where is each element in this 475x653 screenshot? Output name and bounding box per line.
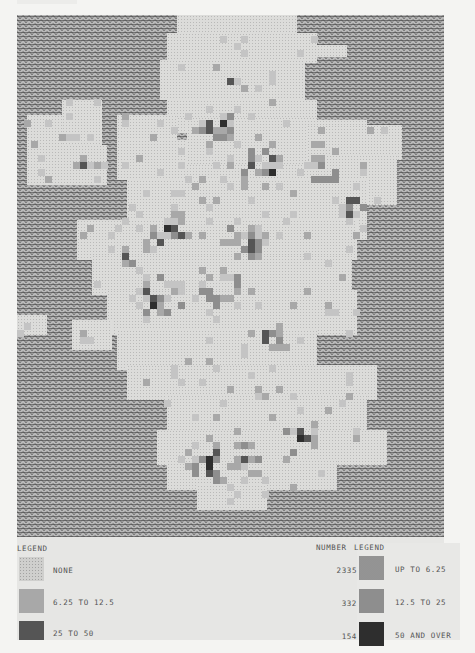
density-cell [122, 120, 129, 127]
density-cell [171, 281, 178, 288]
legend-left-title: LEGEND [17, 544, 48, 553]
density-cell [220, 295, 227, 302]
density-cell [143, 288, 150, 295]
density-cell [346, 330, 353, 337]
density-cell [171, 225, 178, 232]
density-cell [241, 36, 248, 43]
density-cell [164, 218, 171, 225]
density-cell [59, 134, 66, 141]
legend-right-panel: LEGEND UP TO 6.25 12.5 TO 25 50 AND OVER [357, 543, 460, 640]
density-cell [311, 442, 318, 449]
map-frame [17, 15, 444, 537]
density-cell [122, 113, 129, 120]
density-cell [213, 295, 220, 302]
density-cell [332, 176, 339, 183]
density-cell [150, 134, 157, 141]
density-cell [199, 281, 206, 288]
density-cell [143, 274, 150, 281]
density-cell [178, 302, 185, 309]
density-cell [206, 120, 213, 127]
legend-label-6-25-to-12-5: 6.25 TO 12.5 [53, 598, 114, 607]
density-cell [24, 323, 31, 330]
density-cell [136, 211, 143, 218]
density-cell [283, 456, 290, 463]
density-cell [213, 414, 220, 421]
density-cell [269, 365, 276, 372]
density-cell [269, 162, 276, 169]
land-region [72, 320, 112, 350]
density-cell [94, 281, 101, 288]
density-cell [213, 302, 220, 309]
density-cell [192, 470, 199, 477]
density-cell [262, 337, 269, 344]
density-cell [108, 246, 115, 253]
density-cell [248, 246, 255, 253]
density-cell [269, 99, 276, 106]
density-cell [269, 344, 276, 351]
density-cell [178, 190, 185, 197]
density-cell [234, 281, 241, 288]
density-cell [227, 239, 234, 246]
density-cell [73, 162, 80, 169]
density-cell [255, 134, 262, 141]
density-cell [234, 463, 241, 470]
density-cell [87, 225, 94, 232]
density-cell [213, 162, 220, 169]
density-cell [332, 148, 339, 155]
density-cell [234, 288, 241, 295]
density-cell [185, 358, 192, 365]
density-cell [143, 309, 150, 316]
density-cell [248, 225, 255, 232]
density-cell [178, 379, 185, 386]
density-cell [241, 477, 248, 484]
density-cell [304, 288, 311, 295]
density-cell [255, 85, 262, 92]
density-cell [80, 330, 87, 337]
density-cell [234, 456, 241, 463]
density-cell [297, 169, 304, 176]
density-cell [255, 302, 262, 309]
legend-swatch-25-to-50 [19, 621, 44, 640]
density-cell [185, 463, 192, 470]
density-cell [164, 281, 171, 288]
density-cell [171, 211, 178, 218]
density-cell [290, 211, 297, 218]
density-cell [248, 456, 255, 463]
density-cell [129, 204, 136, 211]
density-cell [73, 134, 80, 141]
density-cell [178, 211, 185, 218]
density-cell [24, 120, 31, 127]
density-cell [262, 393, 269, 400]
density-cell [346, 197, 353, 204]
density-cell [171, 288, 178, 295]
density-cell [178, 232, 185, 239]
density-cell [234, 141, 241, 148]
density-cell [220, 477, 227, 484]
density-cell [199, 197, 206, 204]
density-cell [143, 281, 150, 288]
density-cell [234, 232, 241, 239]
density-cell [241, 351, 248, 358]
density-cell [199, 127, 206, 134]
density-cell [234, 253, 241, 260]
density-cell [150, 246, 157, 253]
density-cell [164, 295, 171, 302]
density-cell [276, 162, 283, 169]
density-cell [234, 428, 241, 435]
density-cell [227, 113, 234, 120]
density-cell [199, 456, 206, 463]
density-cell [220, 120, 227, 127]
density-cell [346, 393, 353, 400]
density-cell [171, 365, 178, 372]
density-cell [192, 442, 199, 449]
density-cell [136, 155, 143, 162]
density-cell [255, 253, 262, 260]
density-cell [353, 309, 360, 316]
density-cell [101, 162, 108, 169]
density-cell [178, 162, 185, 169]
density-cell [199, 267, 206, 274]
density-cell [199, 288, 206, 295]
density-cell [157, 295, 164, 302]
density-cell [136, 267, 143, 274]
density-cell [171, 218, 178, 225]
